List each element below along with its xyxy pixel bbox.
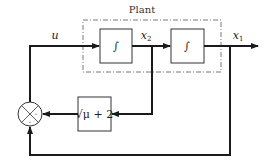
signal-lines xyxy=(30,46,258,155)
summing-junction: - - xyxy=(18,102,42,126)
sqrt-mu-plus-2: √μ + 2 xyxy=(76,108,113,121)
plant-label: Plant xyxy=(129,4,155,15)
feedback-gain-block: √μ + 2 xyxy=(76,97,113,131)
signal-u-label: u xyxy=(51,29,58,42)
signal-x2-label: x2 xyxy=(141,29,152,43)
integral-symbol: ∫ xyxy=(113,40,119,53)
integral-symbol: ∫ xyxy=(184,40,190,53)
integrator-1-block: ∫ xyxy=(100,29,132,63)
signal-x1-label: x1 xyxy=(233,29,244,43)
integrator-2-block: ∫ xyxy=(171,29,204,63)
input-u-line xyxy=(30,46,99,102)
block-diagram: Plant ∫ ∫ √μ + 2 - - u x2 x1 xyxy=(0,0,276,167)
